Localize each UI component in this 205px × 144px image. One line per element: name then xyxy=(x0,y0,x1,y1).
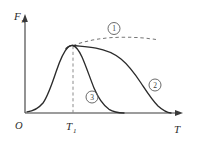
marker-two-label: 2 xyxy=(153,81,157,90)
curve-three-path xyxy=(27,45,124,113)
plot-canvas: 1 2 3 F n T O T 1 xyxy=(0,0,205,144)
y-axis-label: F xyxy=(13,10,21,22)
physics-figure: 1 2 3 F n T O T 1 xyxy=(0,0,205,144)
marker-two: 2 xyxy=(149,79,161,91)
x-tick-label-T1-subscript: 1 xyxy=(73,127,77,135)
dashed-extension-curve-1 xyxy=(73,37,156,45)
marker-one: 1 xyxy=(108,23,120,35)
y-axis-label-subscript: n xyxy=(22,17,26,25)
x-axis-arrow-icon xyxy=(175,110,183,116)
marker-three-label: 3 xyxy=(90,93,94,102)
marker-one-label: 1 xyxy=(112,24,116,33)
marker-three: 3 xyxy=(86,91,98,103)
x-tick-label-T1: T xyxy=(66,120,73,132)
origin-label: O xyxy=(15,120,23,131)
x-axis-label: T xyxy=(174,123,181,135)
